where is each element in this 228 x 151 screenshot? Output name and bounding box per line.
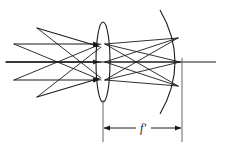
crossing-ray-d <box>37 47 101 97</box>
outgoing-ray-9 <box>105 80 178 86</box>
focal-length-label: f' <box>140 121 146 135</box>
diagram-canvas: f' <box>0 0 228 151</box>
incoming-ray-oblique-lower <box>37 79 99 98</box>
outgoing-ray-group <box>105 38 180 86</box>
crossing-ray-c <box>37 28 101 78</box>
optical-ray-diagram: f' <box>0 0 228 151</box>
outgoing-ray-2 <box>105 44 180 62</box>
incoming-ray-group <box>6 28 99 97</box>
outgoing-ray-1 <box>105 38 178 44</box>
outgoing-ray-8 <box>105 62 180 80</box>
